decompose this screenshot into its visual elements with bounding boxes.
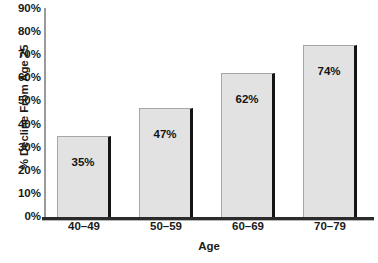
y-tick-label: 0% [0, 210, 41, 222]
x-tick-label: 60–69 [221, 220, 275, 232]
bar[interactable]: 62% [221, 73, 275, 217]
x-axis-title: Age [44, 240, 374, 252]
plot-area: 35% 47% 62% 74% [44, 8, 374, 217]
y-tick-label: 80% [0, 25, 41, 37]
y-axis-line [44, 8, 46, 217]
y-tick-label: 60% [0, 71, 41, 83]
y-tick-label: 50% [0, 94, 41, 106]
x-tick-label: 70–79 [303, 220, 357, 232]
bar-value-label: 47% [140, 128, 190, 140]
bar-group: 47% [139, 8, 193, 217]
y-tick-label: 10% [0, 187, 41, 199]
y-axis-tick-labels: 90% 80% 70% 60% 50% 40% 30% 20% 10% 0% [0, 0, 41, 223]
y-tick-label: 90% [0, 2, 41, 14]
bar-value-label: 35% [58, 156, 108, 168]
bar-group: 35% [57, 8, 111, 217]
y-tick-label: 70% [0, 48, 41, 60]
y-tick-label: 30% [0, 141, 41, 153]
bar-group: 74% [303, 8, 357, 217]
bar-value-label: 62% [222, 93, 272, 105]
x-tick-label: 50–59 [139, 220, 193, 232]
bar[interactable]: 35% [57, 136, 111, 217]
bar[interactable]: 74% [303, 45, 357, 217]
bar-chart: % Decline From Age 25 90% 80% 70% 60% 50… [0, 0, 378, 263]
y-tick-label: 40% [0, 118, 41, 130]
y-tick-label: 20% [0, 164, 41, 176]
bar[interactable]: 47% [139, 108, 193, 217]
x-tick-label: 40–49 [57, 220, 111, 232]
bar-group: 62% [221, 8, 275, 217]
bar-value-label: 74% [304, 65, 354, 77]
